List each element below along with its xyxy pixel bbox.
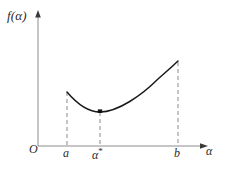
- x-tick-label-a: a: [63, 147, 69, 159]
- x-axis-label: α: [206, 145, 212, 157]
- origin-label: O: [29, 143, 38, 155]
- alpha-star-superscript: *: [98, 146, 103, 156]
- figure-container: f(α) O a α* b α: [0, 0, 226, 177]
- minimum-point-marker: [98, 109, 102, 113]
- x-tick-label-alpha-star: α*: [92, 147, 103, 161]
- y-axis-arrowhead: [35, 10, 41, 18]
- function-curve: [67, 61, 178, 112]
- y-axis-label: f(α): [7, 9, 27, 22]
- x-tick-label-b: b: [174, 147, 180, 159]
